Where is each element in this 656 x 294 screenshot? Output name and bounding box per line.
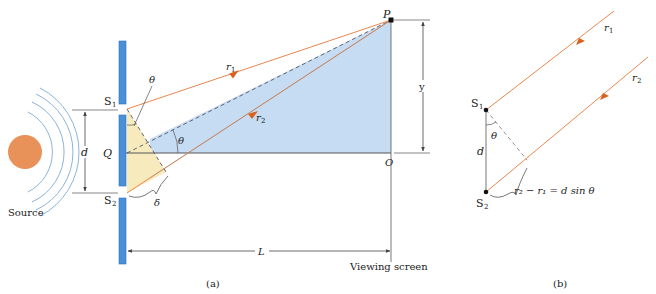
slit-s1-point-b: [484, 108, 489, 113]
barrier-top: [119, 41, 126, 104]
ray-r1-subscript: 1: [231, 66, 235, 74]
barrier-bottom: [119, 198, 126, 264]
part-b-caption: (b): [553, 278, 567, 289]
point-q-label: Q: [103, 147, 112, 160]
light-source-icon: [8, 135, 42, 169]
ray-r2-b-subscript: 2: [637, 77, 641, 85]
y-label: y: [418, 81, 425, 92]
point-o-label: O: [385, 157, 393, 168]
path-difference-label: r₂ − r₁ = d sin θ: [514, 185, 595, 196]
part-b: θ S 1 S 2 d r₂ − r₁ = d sin θ r 1 r 2 (b…: [471, 11, 648, 289]
point-p-label: P: [382, 8, 391, 21]
part-a: Source d S 1 S 2 Q θ θ δ r 1 r 2 P O: [8, 8, 430, 289]
slit-s1-subscript-b: 1: [479, 103, 483, 111]
l-label: L: [257, 246, 265, 257]
ray-r1-b: [486, 11, 614, 110]
diagram-canvas: Source d S 1 S 2 Q θ θ δ r 1 r 2 P O: [0, 0, 656, 294]
barrier-middle: [119, 115, 126, 186]
blue-triangle-region: [150, 20, 391, 153]
part-a-caption: (a): [206, 278, 220, 289]
delta-label: δ: [154, 197, 160, 208]
slit-s2-point-b: [484, 190, 489, 195]
ray-r2-subscript: 2: [261, 117, 265, 125]
theta-label-b: θ: [491, 130, 497, 141]
theta-label-center: θ: [178, 135, 184, 146]
theta-arc-b: [486, 122, 496, 125]
slit-s1-subscript: 1: [112, 101, 116, 109]
slit-s1-label: S: [104, 95, 112, 108]
slit-s2-label: S: [104, 194, 112, 207]
d-label: d: [81, 146, 88, 159]
viewing-screen-label: Viewing screen: [349, 261, 428, 272]
source-label: Source: [8, 207, 44, 218]
slit-s2-subscript-b: 2: [484, 203, 488, 211]
slit-s2-subscript: 2: [112, 200, 116, 208]
ray-r1-b-subscript: 1: [609, 27, 613, 35]
slit-s1-label-b: S: [471, 97, 479, 110]
theta-label-slit: θ: [149, 74, 155, 85]
slit-s2-label-b: S: [476, 197, 484, 210]
double-slit-figure: Source d S 1 S 2 Q θ θ δ r 1 r 2 P O: [0, 0, 656, 294]
ray-r2-b: [486, 57, 648, 192]
d-label-b: d: [477, 145, 484, 158]
